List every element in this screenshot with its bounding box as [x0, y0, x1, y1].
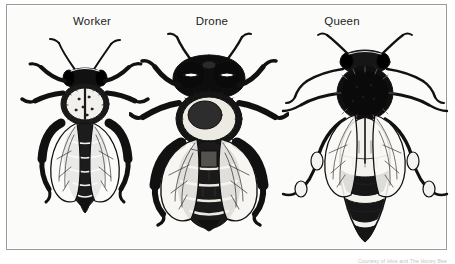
illustration-queen-bee — [279, 31, 451, 249]
illustration-drone-bee — [129, 31, 289, 236]
label-drone: Drone — [157, 15, 267, 27]
label-queen: Queen — [287, 15, 397, 27]
figure-frame: Worker Drone Queen — [6, 4, 447, 250]
figure-attribution: Courtesy of Hive and The Honey Bee — [358, 258, 447, 264]
label-worker: Worker — [37, 15, 147, 27]
